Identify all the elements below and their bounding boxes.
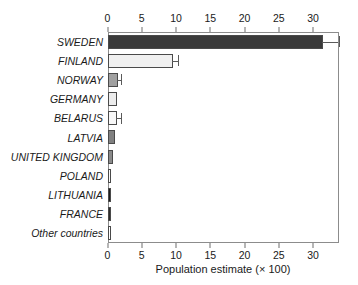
bar[interactable] bbox=[108, 207, 112, 221]
bar[interactable] bbox=[108, 130, 115, 144]
bar[interactable] bbox=[108, 92, 118, 106]
x-axis-title: Population estimate (× 100) bbox=[108, 263, 339, 275]
error-bar-cap bbox=[121, 74, 122, 85]
error-bar bbox=[322, 42, 338, 43]
error-bar-cap bbox=[121, 113, 122, 124]
bar-row[interactable] bbox=[108, 147, 339, 166]
chart-figure: 051015202530 051015202530 SWEDENFINLANDN… bbox=[0, 0, 358, 285]
category-label: LATVIA bbox=[0, 133, 103, 144]
x-axis-tick-label: 0 bbox=[105, 250, 111, 261]
category-label: POLAND bbox=[0, 171, 103, 182]
category-label: Other countries bbox=[0, 228, 103, 239]
bar-row[interactable] bbox=[108, 166, 339, 185]
x-axis-tick-label: 25 bbox=[273, 13, 285, 24]
category-label: GERMANY bbox=[0, 94, 103, 105]
x-axis-tick-label: 10 bbox=[170, 13, 182, 24]
error-bar bbox=[172, 61, 178, 62]
error-bar-cap bbox=[339, 36, 340, 47]
bar-row[interactable] bbox=[108, 90, 339, 109]
x-axis-tick bbox=[210, 243, 211, 248]
x-axis-tick-label: 10 bbox=[170, 250, 182, 261]
bar-row[interactable] bbox=[108, 185, 339, 204]
x-axis-tick bbox=[107, 243, 108, 248]
bar[interactable] bbox=[108, 188, 112, 202]
bar-row[interactable] bbox=[108, 109, 339, 128]
category-label: LITHUANIA bbox=[0, 190, 103, 201]
x-axis-tick bbox=[141, 243, 142, 248]
x-axis-tick-label: 5 bbox=[139, 250, 145, 261]
x-axis-tick bbox=[278, 243, 279, 248]
x-axis-tick-label: 15 bbox=[204, 250, 216, 261]
bar-series bbox=[108, 32, 339, 243]
bar-row[interactable] bbox=[108, 51, 339, 70]
category-label: UNITED KINGDOM bbox=[0, 152, 103, 163]
x-axis-tick-label: 30 bbox=[307, 13, 319, 24]
bar[interactable] bbox=[108, 150, 113, 164]
x-axis-tick bbox=[313, 243, 314, 248]
x-axis-tick-label: 0 bbox=[105, 13, 111, 24]
bar[interactable] bbox=[108, 169, 112, 183]
x-axis-tick-label: 20 bbox=[239, 13, 251, 24]
error-bar-cap bbox=[178, 55, 179, 66]
x-axis-tick bbox=[244, 243, 245, 248]
bar[interactable] bbox=[108, 226, 112, 240]
x-axis-tick-label: 5 bbox=[139, 13, 145, 24]
bar[interactable] bbox=[108, 54, 173, 68]
category-label: FRANCE bbox=[0, 209, 103, 220]
category-label: BELARUS bbox=[0, 113, 103, 124]
bar-row[interactable] bbox=[108, 128, 339, 147]
bar-row[interactable] bbox=[108, 205, 339, 224]
bar[interactable] bbox=[108, 35, 324, 49]
bar-row[interactable] bbox=[108, 32, 339, 51]
x-axis-tick-label: 30 bbox=[307, 250, 319, 261]
category-label: NORWAY bbox=[0, 75, 103, 86]
x-axis-tick-label: 15 bbox=[204, 13, 216, 24]
x-axis-tick bbox=[176, 243, 177, 248]
category-label: FINLAND bbox=[0, 56, 103, 67]
bar-row[interactable] bbox=[108, 70, 339, 89]
category-axis-labels: SWEDENFINLANDNORWAYGERMANYBELARUSLATVIAU… bbox=[0, 32, 103, 243]
x-axis-tick-label: 20 bbox=[239, 250, 251, 261]
category-label: SWEDEN bbox=[0, 37, 103, 48]
x-axis-tick-label: 25 bbox=[273, 250, 285, 261]
bar-row[interactable] bbox=[108, 224, 339, 243]
